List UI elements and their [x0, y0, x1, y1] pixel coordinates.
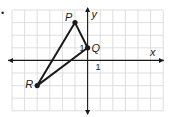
- problem-bullet: •: [1, 8, 4, 18]
- x-axis-arrow-left-icon: [8, 58, 13, 63]
- point-p-dot: [72, 20, 77, 25]
- x-axis-label: x: [149, 46, 156, 58]
- y-axis-arrow-up-icon: [85, 7, 90, 12]
- y-axis-arrow-down-icon: [85, 110, 90, 115]
- axes: [8, 7, 164, 115]
- point-label-p: P: [65, 11, 73, 23]
- point-r-dot: [35, 83, 40, 88]
- point-label-r: R: [25, 78, 33, 90]
- x-tick-label-1: 1: [96, 62, 101, 72]
- point-q-dot: [85, 45, 90, 50]
- y-tick-label-1: 1: [80, 43, 85, 53]
- coordinate-plane-figure: • x y 1 1 P Q R: [0, 0, 170, 117]
- point-label-q: Q: [92, 42, 101, 54]
